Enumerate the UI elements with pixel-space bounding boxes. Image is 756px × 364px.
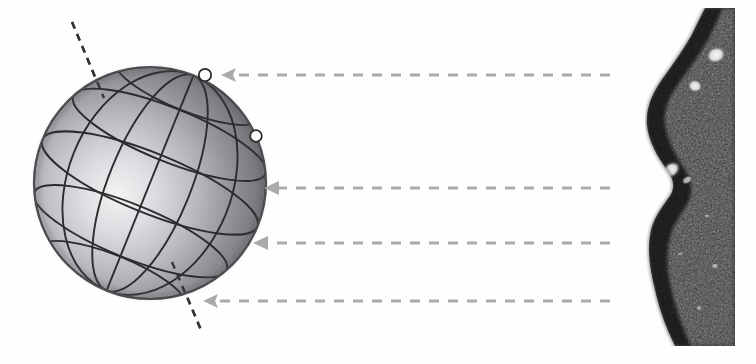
marker-lower[interactable] [250,130,262,142]
gridded-sphere [0,30,302,337]
arrow-3-head [253,236,268,250]
marker-upper[interactable] [199,69,211,81]
arrow-group [203,68,610,308]
arrow-2 [264,181,610,195]
arrow-4 [203,294,610,308]
arrow-1 [221,68,610,82]
scientific-figure [0,0,756,364]
diagram-layer [0,0,756,364]
arrow-4-head [203,294,218,308]
arrow-3 [253,236,610,250]
arrow-1-head [221,68,236,82]
